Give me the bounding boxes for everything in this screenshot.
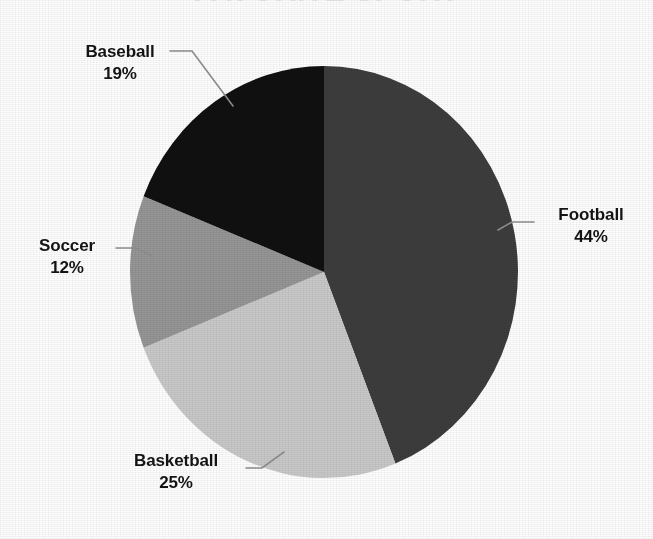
slice-label-football: Football 44% [536,204,646,248]
slice-label-basketball-value: 25% [96,472,256,494]
slice-label-football-name: Football [536,204,646,226]
slice-label-football-value: 44% [536,226,646,248]
slice-label-basketball: Basketball 25% [96,450,256,494]
slice-label-soccer-value: 12% [14,257,120,279]
pie-slices-precise [130,66,518,478]
pie-chart-figure: FAVORITE SPORT Baseball 19 [0,0,653,539]
slice-label-baseball-name: Baseball [60,41,180,63]
slice-label-soccer: Soccer 12% [14,235,120,279]
slice-label-baseball-value: 19% [60,63,180,85]
slice-label-baseball: Baseball 19% [60,41,180,85]
slice-label-basketball-name: Basketball [96,450,256,472]
slice-label-soccer-name: Soccer [14,235,120,257]
